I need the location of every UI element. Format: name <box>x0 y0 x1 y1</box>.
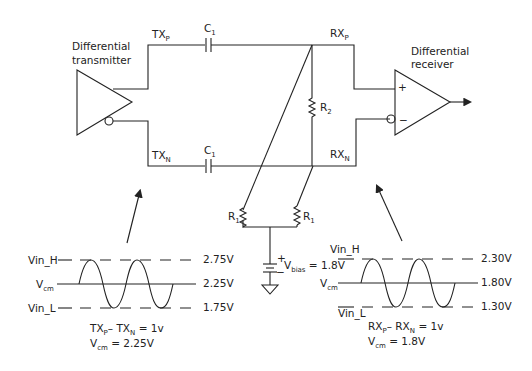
svg-text:C1: C1 <box>204 22 216 37</box>
tx-level-cm: 2.25V <box>203 277 234 289</box>
capacitor-c1-bottom: C1 <box>204 144 216 173</box>
receiver-label-line1: Differential <box>411 45 469 57</box>
tx-vin-l-label: Vin_L <box>28 302 56 315</box>
svg-text:R2: R2 <box>320 101 332 116</box>
tx-diff-equation: TXP– TXN = 1v <box>89 322 164 337</box>
inverting-output-bubble-icon <box>105 117 113 125</box>
rx-vcm-label: Vcm <box>320 277 338 292</box>
rxp-to-r1-left-wire <box>243 45 312 210</box>
svg-text:R1: R1 <box>228 210 240 225</box>
rx-vin-h-label: Vin_H <box>330 243 360 256</box>
r1-join-wire <box>243 225 297 227</box>
rx-vin-l-label: Vin_L <box>338 307 366 320</box>
tx-level-low: 1.75V <box>203 301 234 313</box>
svg-text:R1: R1 <box>303 210 315 225</box>
resistor-r1-left: R1 <box>228 208 246 227</box>
txp-label: TXP <box>151 28 170 43</box>
resistor-r1-right: R1 <box>294 206 315 225</box>
rx-waveform-panel: Vin_H Vcm Vin_L 2.30V 1.80V 1.30V RXP– R… <box>320 243 512 350</box>
resistor-r2: R2 <box>309 45 332 166</box>
tx-waveform-panel: Vin_H Vcm Vin_L 2.75V 2.25V 1.75V TXP– T… <box>28 253 234 352</box>
tx-level-high: 2.75V <box>203 253 234 265</box>
rxn-wire <box>211 119 390 166</box>
rxn-label: RXN <box>330 148 350 163</box>
vbias-source: + − Vbias = 1.8V <box>263 227 346 285</box>
rx-level-high: 2.30V <box>481 252 512 264</box>
transmitter-label-line2: transmitter <box>72 54 132 66</box>
rxp-label: RXP <box>330 27 349 42</box>
differential-receiver: + − Differential receiver <box>387 45 470 135</box>
tx-vcm-equation: Vcm = 2.25V <box>90 337 155 352</box>
ac-coupled-differential-link-diagram: Differential transmitter C1 C1 TXP TXN R… <box>0 0 532 371</box>
capacitor-c1-top: C1 <box>204 22 216 52</box>
tx-waveform-pointer-arrow-icon <box>127 191 140 243</box>
receiver-label-line2: receiver <box>411 58 454 70</box>
rx-diff-equation: RXP– RXN = 1v <box>368 320 443 335</box>
tx-vin-h-label: Vin_H <box>28 254 58 267</box>
rx-level-low: 1.30V <box>481 300 512 312</box>
rx-waveform-pointer-arrow-icon <box>377 186 402 241</box>
svg-text:Vbias = 1.8V: Vbias = 1.8V <box>284 259 346 274</box>
transmitter-triangle-icon <box>77 70 132 135</box>
rx-vcm-equation: Vcm = 1.8V <box>368 335 426 350</box>
svg-text:C1: C1 <box>204 144 216 159</box>
transmitter-label-line1: Differential <box>72 40 130 52</box>
rxn-to-r1-right-wire <box>297 166 313 206</box>
txn-label: TXN <box>151 149 171 164</box>
plus-input-sign: + <box>398 81 407 93</box>
minus-input-sign: − <box>399 114 408 126</box>
tx-vcm-label: Vcm <box>36 278 54 293</box>
ground-icon <box>262 285 278 294</box>
rx-level-cm: 1.80V <box>481 276 512 288</box>
